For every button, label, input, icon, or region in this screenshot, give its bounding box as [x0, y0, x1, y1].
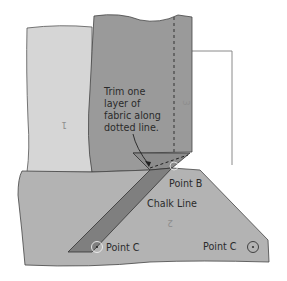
annotation-line-2: layer of [104, 98, 141, 109]
annotation-line-3: fabric along [104, 110, 161, 121]
piece-number-1: 1 [61, 120, 67, 130]
annotation-line-1: Trim one [103, 86, 145, 97]
chalk-line-label: Chalk Line [147, 198, 197, 209]
piece-number-3: 3 [181, 100, 191, 106]
point-c-right-label: Point C [203, 241, 237, 252]
point-b-label: Point B [169, 178, 202, 189]
annotation-line-4: dotted line. [104, 122, 159, 133]
point-c-left-label: Point C [106, 242, 140, 253]
piece-number-2: 2 [167, 218, 173, 228]
fabric-piece-1 [27, 26, 92, 172]
outline-rectangle [192, 51, 232, 165]
fabric-corner-diagram: Trim one layer of fabric along dotted li… [0, 0, 287, 281]
